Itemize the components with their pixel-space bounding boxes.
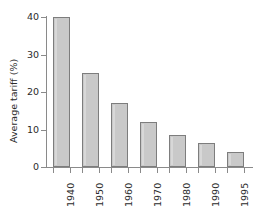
y-tick-label: 10	[18, 125, 39, 135]
x-tick-mark	[53, 168, 54, 173]
x-axis-line	[46, 167, 253, 168]
bar-highlight	[142, 124, 144, 165]
x-tick-mark	[140, 168, 141, 173]
y-tick-mark	[41, 17, 46, 18]
x-tick-label: 1990	[211, 183, 221, 207]
x-tick-label: 1995	[240, 183, 250, 207]
y-tick-label: 0	[18, 162, 39, 172]
x-tick-mark	[128, 168, 129, 173]
bar-highlight	[84, 75, 86, 165]
x-tick-mark	[70, 168, 71, 173]
chart-screenshot: 010203040 1940195019601970198019901995 A…	[0, 0, 263, 213]
y-tick-label: 30	[18, 50, 39, 60]
bar	[111, 103, 128, 167]
x-tick-mark	[82, 168, 83, 173]
y-tick-label: 40	[18, 12, 39, 22]
bar	[140, 122, 157, 167]
x-tick-mark	[186, 168, 187, 173]
bar-highlight	[55, 19, 57, 165]
bar-highlight	[113, 105, 115, 165]
x-tick-label: 1960	[124, 183, 134, 207]
bar-highlight	[171, 137, 173, 165]
y-tick-mark	[41, 130, 46, 131]
bar-highlight	[229, 154, 231, 165]
x-tick-mark	[227, 168, 228, 173]
y-axis-title: Average tariff (%)	[9, 59, 19, 143]
bar	[227, 152, 244, 167]
x-tick-label: 1950	[95, 183, 105, 207]
x-tick-mark	[111, 168, 112, 173]
y-tick-mark	[41, 167, 46, 168]
x-tick-label: 1970	[153, 183, 163, 207]
bar	[198, 143, 215, 167]
x-tick-mark	[215, 168, 216, 173]
x-tick-mark	[169, 168, 170, 173]
y-tick-mark	[41, 55, 46, 56]
bar	[169, 135, 186, 167]
y-tick-mark	[41, 92, 46, 93]
plot-area	[47, 17, 250, 167]
y-tick-label: 20	[18, 87, 39, 97]
x-tick-mark	[244, 168, 245, 173]
x-tick-mark	[157, 168, 158, 173]
x-tick-mark	[99, 168, 100, 173]
x-tick-label: 1940	[66, 183, 76, 207]
bar-highlight	[200, 145, 202, 165]
bar	[82, 73, 99, 167]
x-tick-label: 1980	[182, 183, 192, 207]
x-tick-mark	[198, 168, 199, 173]
bar	[53, 17, 70, 167]
